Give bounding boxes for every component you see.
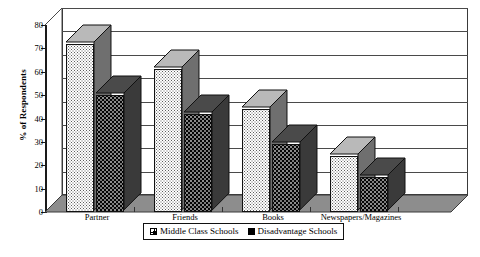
y-axis-tick-label: 60 — [23, 68, 43, 76]
x-axis-label: Books — [262, 212, 284, 222]
plot-area: 01020304050607080 — [45, 8, 468, 208]
legend-label-disadvantage: Disadvantage Schools — [258, 226, 338, 236]
legend-item-disadvantage: Disadvantage Schools — [248, 226, 338, 236]
bar-middle-class — [66, 44, 94, 212]
y-axis-tick-label: 10 — [23, 185, 43, 193]
bar-middle-class — [330, 156, 358, 212]
bar-front-face — [360, 177, 388, 212]
y-axis-tick-label: 30 — [23, 138, 43, 146]
bar-front-face — [242, 109, 270, 212]
bar-front-face — [66, 44, 94, 212]
x-axis-label: Newspapers/Magazines — [321, 212, 402, 222]
legend-item-middle-class: Middle Class Schools — [150, 226, 239, 236]
y-axis-tick-label: 20 — [23, 161, 43, 169]
legend-swatch-light-icon — [150, 228, 157, 235]
y-axis-tick-label: 50 — [23, 91, 43, 99]
bar-front-face — [154, 69, 182, 212]
x-axis-tick — [310, 207, 311, 212]
y-axis-tick-label: 0 — [23, 208, 43, 216]
legend-label-middle-class: Middle Class Schools — [160, 226, 239, 236]
x-axis-label: Partner — [85, 212, 110, 222]
y-axis-tick-label: 70 — [23, 44, 43, 52]
bar-front-face — [96, 95, 124, 212]
bar-front-face — [184, 114, 212, 212]
bar-series-container — [45, 8, 468, 208]
y-axis-title: % of Respondents — [18, 35, 28, 175]
bar-disadvantage — [272, 144, 300, 212]
x-axis-tick — [222, 207, 223, 212]
bar-middle-class — [242, 109, 270, 212]
chart-legend: Middle Class Schools Disadvantage School… — [143, 223, 344, 240]
y-axis-tick-label: 40 — [23, 115, 43, 123]
bar-front-face — [272, 144, 300, 212]
legend-swatch-dark-icon — [248, 228, 255, 235]
bar-disadvantage — [96, 95, 124, 212]
bar-disadvantage — [184, 114, 212, 212]
y-axis-tick-label: 80 — [23, 21, 43, 29]
x-axis-label: Friends — [172, 212, 198, 222]
x-axis-tick — [134, 207, 135, 212]
x-axis-tick — [398, 207, 399, 212]
bar-front-face — [330, 156, 358, 212]
bar-chart: % of Respondents 01020304050607080 Partn… — [0, 0, 480, 257]
bar-disadvantage — [360, 177, 388, 212]
bar-middle-class — [154, 69, 182, 212]
